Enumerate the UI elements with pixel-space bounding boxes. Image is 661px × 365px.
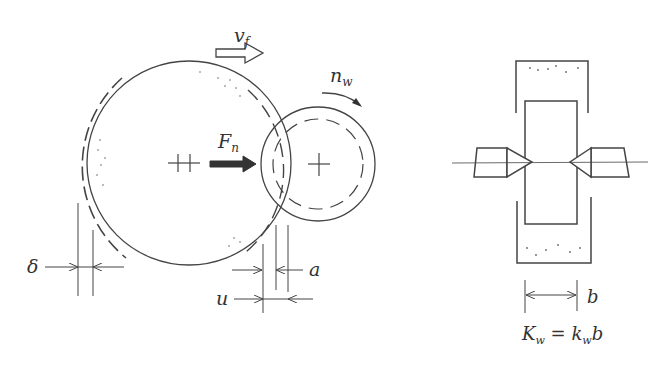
- workpiece: [261, 107, 375, 221]
- delta-label: δ: [27, 255, 38, 277]
- feed-velocity-label: vf: [234, 24, 252, 49]
- delta-dimension: [45, 203, 124, 296]
- a-dimension: [232, 225, 303, 292]
- normal-force-label: Fn: [217, 130, 239, 155]
- b-label: b: [587, 286, 599, 307]
- feed-velocity-arrow: [216, 43, 263, 63]
- a-label: a: [309, 258, 320, 280]
- wheel-center-mark: [168, 154, 200, 172]
- rotation-arrow: [322, 93, 362, 107]
- grinding-wheel: [82, 61, 291, 265]
- b-dimension: [525, 280, 577, 313]
- abrasive-speckles: [96, 71, 241, 247]
- normal-force-arrow: [210, 156, 256, 172]
- u-label: u: [216, 287, 228, 309]
- stiffness-formula: Kw = kwb: [521, 323, 603, 347]
- u-dimension: [234, 244, 313, 313]
- diagram-canvas: vf Fn nw δ a u: [0, 0, 661, 365]
- workpiece-speed-label: nw: [330, 64, 353, 89]
